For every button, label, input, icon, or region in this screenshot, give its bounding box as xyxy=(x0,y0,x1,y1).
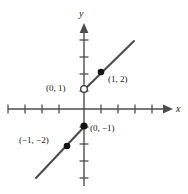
point-label-0-neg1: (0, −1) xyxy=(90,124,115,133)
filled-point-marker-neg1-neg2 xyxy=(64,143,71,150)
point-label-neg1-neg2: (−1, −2) xyxy=(19,136,49,145)
filled-point-marker-1-2 xyxy=(98,69,105,76)
y-axis-arrowhead xyxy=(80,23,89,33)
point-label-0-1: (0, 1) xyxy=(46,84,66,93)
point-label-1-2: (1, 2) xyxy=(108,75,128,84)
graph-canvas xyxy=(0,0,188,194)
filled-point-marker-0-neg1 xyxy=(80,122,87,129)
coordinate-plane-figure: (1, 2) (0, 1) (0, −1) (−1, −2) x y xyxy=(0,0,188,194)
y-axis-label: y xyxy=(79,9,83,19)
open-endpoint-marker xyxy=(81,86,88,93)
x-axis-label: x xyxy=(176,104,180,114)
x-axis-arrowhead xyxy=(163,105,173,114)
